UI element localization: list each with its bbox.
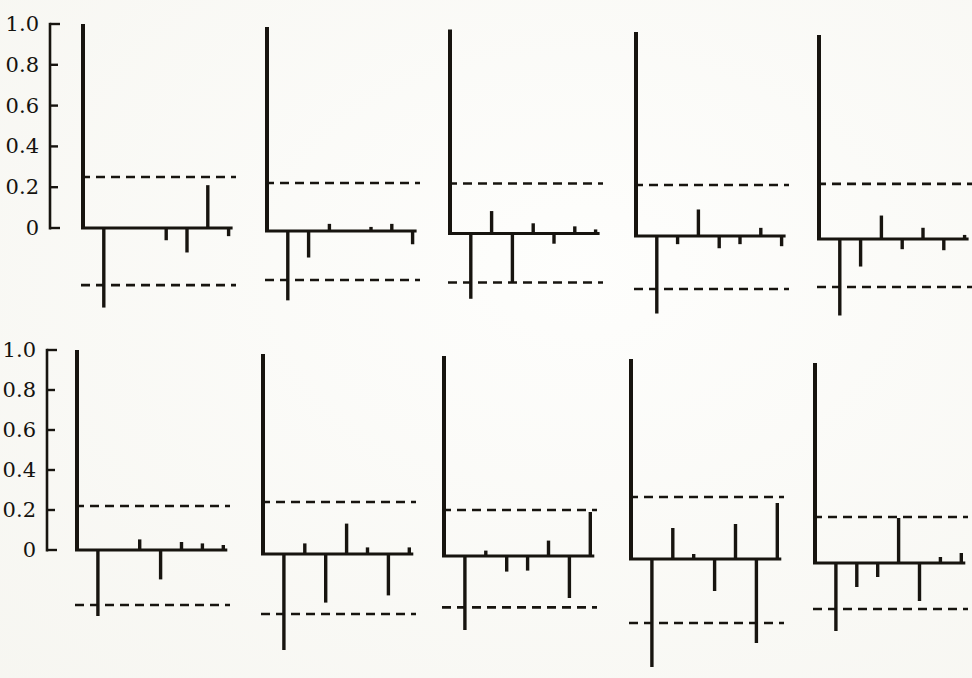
y-axis-tick-label: 0.2 (3, 498, 36, 522)
acf-small-multiples-figure: 1.00.80.60.40.201.00.80.60.40.20 (0, 0, 972, 678)
y-axis: 1.00.80.60.40.20 (3, 338, 57, 562)
y-axis-tick-label: 0 (23, 538, 36, 562)
y-axis-tick-label: 1.0 (6, 12, 39, 36)
subplot-acf-r2c5 (813, 363, 968, 631)
subplot-acf-r1c4 (634, 32, 789, 314)
y-axis-tick-label: 0.6 (3, 418, 36, 442)
subplot-acf-r1c2 (265, 27, 420, 300)
subplot-acf-r2c4 (629, 359, 784, 667)
y-axis-tick-label: 0.8 (3, 378, 36, 402)
y-axis: 1.00.80.60.40.20 (6, 12, 60, 240)
subplot-acf-r2c2 (261, 354, 416, 650)
subplot-acf-r1c3 (448, 30, 603, 299)
y-axis-tick-label: 0 (26, 216, 39, 240)
scanned-figure-page: 1.00.80.60.40.201.00.80.60.40.20 (0, 0, 972, 678)
y-axis-tick-label: 0.2 (6, 175, 39, 199)
y-axis-tick-label: 0.8 (6, 53, 39, 77)
y-axis-tick-label: 1.0 (3, 338, 36, 362)
subplot-acf-r2c1: 1.00.80.60.40.20 (3, 338, 230, 616)
y-axis-tick-label: 0.6 (6, 94, 39, 118)
subplot-acf-r1c1: 1.00.80.60.40.20 (6, 12, 236, 308)
y-axis-tick-label: 0.4 (6, 134, 39, 158)
subplot-acf-r2c3 (442, 356, 597, 630)
subplot-acf-r1c5 (817, 35, 972, 316)
y-axis-tick-label: 0.4 (3, 458, 36, 482)
